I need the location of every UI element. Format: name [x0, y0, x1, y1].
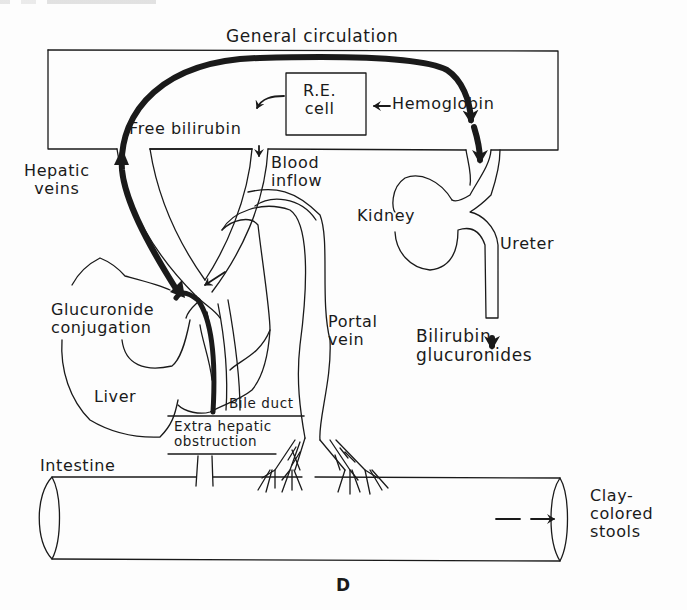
bile-duct-label: Bile duct	[229, 396, 294, 411]
liver-label: Liver	[94, 388, 136, 406]
hepatic-top-arrowhead	[114, 148, 129, 165]
glucuronide-conjugation-label: Glucuronide conjugation	[51, 301, 154, 337]
hepatic-veins-label: Hepatic veins	[24, 162, 90, 198]
extra-hepatic-obstruction-label: Extra hepatic obstruction	[174, 419, 272, 449]
thin-flow-arrows	[205, 96, 554, 519]
hemoglobin-label: Hemoglobin	[392, 95, 494, 113]
bilirubin-glucuronides-label: Bilirubin glucuronides	[416, 327, 532, 365]
panel-letter: D	[336, 575, 350, 595]
hepatic-vein	[117, 149, 205, 296]
intestine	[39, 477, 567, 561]
kidney-label: Kidney	[357, 207, 415, 225]
portal-vein-label: Portal vein	[328, 313, 378, 349]
free-bilirubin-label: Free bilirubin	[129, 120, 241, 138]
clay-colored-stools-label: Clay- colored stools	[590, 487, 653, 541]
blood-inflow-label: Blood inflow	[271, 154, 322, 190]
re-to-free-bilirubin-arrow	[257, 96, 284, 108]
kidney	[393, 150, 500, 318]
intestine-label: Intestine	[40, 457, 115, 475]
ureter-label: Ureter	[500, 235, 554, 253]
general-circulation-label: General circulation	[226, 27, 398, 46]
re-cell-label: R.E. cell	[303, 82, 336, 118]
